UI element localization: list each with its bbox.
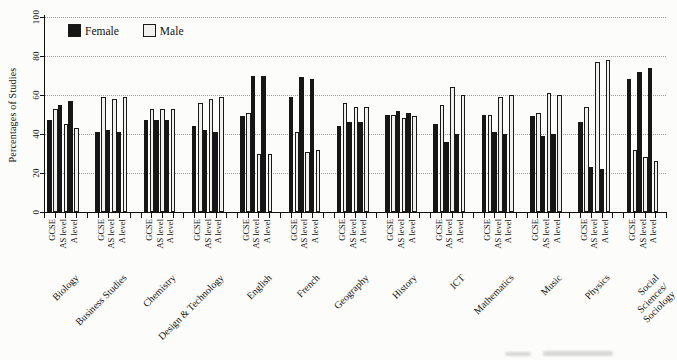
x-level-label-chemistry-a-level: A level <box>165 219 175 243</box>
x-tick <box>494 213 495 218</box>
x-level-label-english-a-level: A level <box>262 219 272 243</box>
bar-male-french-a-level <box>316 150 321 212</box>
x-tick <box>505 213 506 218</box>
bar-female-history-gcse <box>385 115 390 213</box>
bar-female-french-as-level <box>299 77 304 212</box>
x-tick <box>205 213 206 218</box>
x-tick <box>162 213 163 218</box>
x-tick <box>258 213 259 218</box>
y-tick-label-100: 100 <box>31 10 41 24</box>
x-tick <box>655 213 656 218</box>
x-tick <box>216 213 217 218</box>
bar-male-chemistry-a-level <box>171 109 176 212</box>
bar-female-music-a-level <box>551 134 556 212</box>
bar-male-music-a-level <box>557 95 562 212</box>
x-level-label-design-technology-a-level: A level <box>213 219 223 243</box>
x-level-label-design-technology-as-level: AS level <box>203 219 213 249</box>
x-tick <box>484 213 485 218</box>
bar-male-geography-a-level <box>364 107 369 212</box>
y-tick-label-80: 80 <box>31 51 41 61</box>
x-tick <box>173 213 174 218</box>
bar-female-chemistry-gcse <box>144 120 149 212</box>
x-tick <box>119 213 120 218</box>
x-level-label-business-studies-as-level: AS level <box>106 219 116 249</box>
x-tick <box>441 213 442 218</box>
x-tick <box>151 213 152 218</box>
bar-female-physics-a-level <box>600 169 605 212</box>
x-tick <box>108 213 109 218</box>
x-subject-label-geography: Geography <box>331 272 371 312</box>
x-tick <box>602 213 603 218</box>
x-tick <box>98 213 99 218</box>
x-tick <box>580 213 581 218</box>
x-level-label-biology-gcse: GCSE <box>47 219 57 241</box>
x-tick <box>248 213 249 218</box>
bar-female-music-gcse <box>530 116 535 212</box>
x-tick <box>65 213 66 218</box>
bar-female-social-sciences--a-level <box>648 68 653 212</box>
x-tick <box>537 213 538 218</box>
bar-female-english-gcse <box>240 116 245 212</box>
bar-female-biology-a-level <box>68 101 73 212</box>
x-tick <box>559 213 560 218</box>
x-tick <box>312 213 313 218</box>
bar-female-history-a-level <box>406 113 411 212</box>
x-level-label-chemistry-as-level: AS level <box>155 219 165 249</box>
x-tick <box>87 213 88 218</box>
x-tick <box>527 213 528 218</box>
bar-female-mathematics-as-level <box>492 132 497 212</box>
x-tick <box>76 213 77 218</box>
x-level-label-history-gcse: GCSE <box>385 219 395 241</box>
x-tick <box>269 213 270 218</box>
x-level-label-mathematics-gcse: GCSE <box>482 219 492 241</box>
bar-female-mathematics-a-level <box>503 134 508 212</box>
x-level-label-english-gcse: GCSE <box>241 219 251 241</box>
bar-female-business-studies-as-level <box>106 130 111 212</box>
bar-female-mathematics-gcse <box>482 115 487 213</box>
bar-male-biology-a-level <box>74 128 79 212</box>
x-level-label-biology-a-level: A level <box>69 219 79 243</box>
bar-male-ict-a-level <box>461 95 466 212</box>
y-tick-label-40: 40 <box>31 129 41 139</box>
x-tick <box>387 213 388 218</box>
gridline-100 <box>44 17 666 18</box>
x-level-label-geography-gcse: GCSE <box>337 219 347 241</box>
x-tick <box>473 213 474 218</box>
bar-male-physics-a-level <box>606 60 611 212</box>
bar-female-ict-a-level <box>455 134 460 212</box>
x-tick <box>130 213 131 218</box>
x-level-label-french-as-level: AS level <box>299 219 309 249</box>
x-level-label-physics-as-level: AS level <box>589 219 599 249</box>
x-level-label-history-a-level: A level <box>407 219 417 243</box>
x-level-label-history-as-level: AS level <box>396 219 406 249</box>
x-subject-label-mathematics: Mathematics <box>471 272 516 317</box>
x-tick <box>141 213 142 218</box>
x-tick <box>237 213 238 218</box>
bar-female-physics-gcse <box>578 122 583 212</box>
x-subject-label-chemistry: Chemistry <box>140 272 178 310</box>
x-tick <box>334 213 335 218</box>
x-level-label-geography-as-level: AS level <box>348 219 358 249</box>
x-level-label-social-sciences--as-level: AS level <box>638 219 648 249</box>
x-subject-label-history: History <box>390 272 419 301</box>
x-level-label-design-technology-gcse: GCSE <box>192 219 202 241</box>
bar-male-history-a-level <box>412 116 417 212</box>
bar-female-geography-a-level <box>358 122 363 212</box>
bar-female-chemistry-as-level <box>154 120 159 212</box>
y-tick-label-0: 0 <box>31 210 41 215</box>
bar-male-english-a-level <box>268 154 273 213</box>
bar-female-biology-as-level <box>58 105 63 212</box>
y-tick-label-60: 60 <box>31 90 41 100</box>
x-tick <box>591 213 592 218</box>
x-tick <box>376 213 377 218</box>
bar-female-history-as-level <box>396 111 401 212</box>
x-level-label-physics-gcse: GCSE <box>579 219 589 241</box>
x-tick <box>280 213 281 218</box>
x-level-label-ict-a-level: A level <box>455 219 465 243</box>
x-tick <box>569 213 570 218</box>
x-tick <box>398 213 399 218</box>
x-tick <box>44 213 45 218</box>
x-tick <box>666 213 667 218</box>
gridline-80 <box>44 56 666 57</box>
x-tick <box>612 213 613 218</box>
